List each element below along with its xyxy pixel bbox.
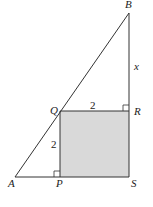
label-s: S <box>131 177 137 189</box>
label-p: P <box>55 177 63 189</box>
shaded-square-pqrs <box>60 111 129 177</box>
measure-qr: 2 <box>90 99 96 111</box>
label-r: R <box>133 105 141 117</box>
right-angle-r-icon <box>123 105 129 111</box>
label-q: Q <box>50 104 58 116</box>
measure-br: x <box>133 60 139 72</box>
geometry-diagram: B Q R A P S 2 2 x <box>0 0 153 207</box>
label-a: A <box>7 177 15 189</box>
measure-pq: 2 <box>51 138 57 150</box>
label-b: B <box>125 0 132 10</box>
